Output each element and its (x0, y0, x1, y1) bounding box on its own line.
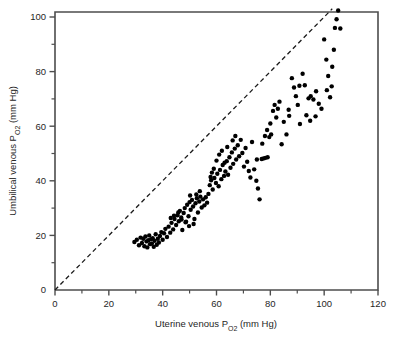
data-point (180, 228, 184, 232)
scatter-plot-figure: 020406080100120 020406080100 Uterine ven… (0, 0, 403, 338)
data-point (186, 214, 190, 218)
y-tick-label: 60 (35, 121, 46, 132)
data-point (135, 238, 139, 242)
data-point (303, 83, 307, 87)
x-tick-label: 100 (316, 298, 332, 309)
data-point (271, 109, 275, 113)
data-point (210, 170, 214, 174)
data-point (240, 151, 244, 155)
data-point (208, 183, 212, 187)
data-point (333, 26, 337, 30)
data-point (205, 200, 209, 204)
data-point (294, 94, 298, 98)
x-tick-label: 40 (157, 298, 168, 309)
y-tick-label: 20 (35, 230, 46, 241)
data-point (226, 173, 230, 177)
data-point (215, 172, 219, 176)
data-point (179, 217, 183, 221)
data-point (300, 72, 304, 76)
data-point (317, 102, 321, 106)
data-point (279, 142, 283, 146)
figure-background (0, 0, 403, 338)
data-point (158, 234, 162, 238)
data-point (245, 159, 249, 163)
y-tick-label: 80 (35, 66, 46, 77)
data-point (313, 114, 317, 118)
data-point (254, 179, 258, 183)
data-point (282, 120, 286, 124)
data-point (196, 210, 200, 214)
y-tick-label: 100 (30, 11, 46, 22)
data-point (287, 114, 291, 118)
data-point (147, 233, 151, 237)
data-point (168, 230, 172, 234)
data-point (332, 48, 336, 52)
data-point (191, 222, 195, 226)
data-point (166, 224, 170, 228)
data-point (214, 158, 218, 162)
data-point (334, 17, 338, 21)
data-point (304, 113, 308, 117)
data-point (231, 162, 235, 166)
y-tick-label: 0 (41, 284, 46, 295)
data-point (193, 201, 197, 205)
data-point (230, 150, 234, 154)
data-point (314, 89, 318, 93)
x-tick-label: 0 (52, 298, 57, 309)
data-point (328, 95, 332, 99)
data-point (322, 37, 326, 41)
data-point (174, 223, 178, 227)
data-point (162, 231, 166, 235)
data-point (247, 169, 251, 173)
data-point (194, 192, 198, 196)
data-point (255, 157, 259, 161)
data-point (269, 132, 273, 136)
data-point (311, 97, 315, 101)
data-point (239, 138, 243, 142)
data-point (290, 76, 294, 80)
data-point (169, 221, 173, 225)
data-point (276, 107, 280, 111)
data-point (153, 232, 157, 236)
data-point (252, 167, 256, 171)
data-point (222, 174, 226, 178)
data-point (308, 119, 312, 123)
data-point (234, 157, 238, 161)
data-point (211, 187, 215, 191)
data-point (324, 57, 328, 61)
data-point (243, 146, 247, 150)
data-point (222, 161, 226, 165)
data-point (272, 103, 276, 107)
data-point (212, 167, 216, 171)
data-point (338, 26, 342, 30)
data-point (171, 227, 175, 231)
data-point (217, 152, 221, 156)
data-point (208, 175, 212, 179)
data-point (298, 122, 302, 126)
data-point (157, 240, 161, 244)
data-point (325, 88, 329, 92)
data-point (292, 85, 296, 89)
x-tick-label: 20 (104, 298, 115, 309)
data-point (216, 184, 220, 188)
data-point (260, 141, 264, 145)
data-point (296, 103, 300, 107)
data-point (256, 186, 260, 190)
data-point (225, 145, 229, 149)
data-point (274, 115, 278, 119)
data-point (197, 199, 201, 203)
data-point (265, 128, 269, 132)
data-point (160, 238, 164, 242)
data-point (183, 220, 187, 224)
data-point (284, 132, 288, 136)
data-point (233, 134, 237, 138)
data-point (319, 107, 323, 111)
data-point (236, 143, 240, 147)
data-point (277, 99, 281, 103)
data-point (227, 155, 231, 159)
data-point (176, 210, 180, 214)
data-point (237, 154, 241, 158)
data-point (187, 224, 191, 228)
data-point (228, 166, 232, 170)
data-point (233, 146, 237, 150)
